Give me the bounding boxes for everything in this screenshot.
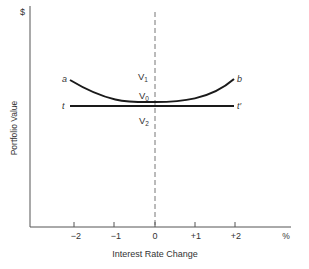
y-axis-title: Portfolio Value [9, 100, 19, 155]
portfolio-value-curve [70, 79, 234, 102]
curve-start-label: a [62, 74, 67, 84]
x-ticks [74, 222, 235, 227]
y-unit-label: $ [20, 7, 25, 17]
line-start-label: t [62, 101, 65, 111]
tick-label-plus2: +2 [231, 231, 241, 241]
tick-label-0: 0 [152, 231, 157, 241]
tick-label-minus2: −2 [71, 231, 81, 241]
curve-end-label: b [237, 74, 242, 84]
v1-label: V1 [138, 71, 148, 83]
tick-label-plus1: +1 [191, 231, 201, 241]
v0-label: V0 [139, 90, 149, 102]
x-unit-label: % [282, 231, 290, 241]
chart: $ Portfolio Value −2 −1 0 +1 +2 % Intere… [0, 0, 309, 269]
x-axis-title: Interest Rate Change [112, 249, 198, 259]
v2-label: V2 [139, 115, 149, 127]
line-end-label: t′ [237, 101, 242, 111]
tick-label-minus1: −1 [111, 231, 121, 241]
